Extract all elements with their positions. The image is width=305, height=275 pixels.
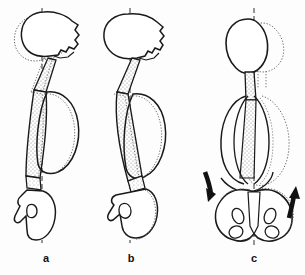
panel-caption-a: a <box>36 252 56 264</box>
thoracic-cage-a <box>37 92 79 174</box>
skull-dotted-neck-c <box>258 71 266 88</box>
panel-a <box>14 8 79 243</box>
pelvis-notch-b <box>119 203 131 218</box>
panel-caption-b: b <box>121 252 141 264</box>
lumbar-band-a <box>26 176 41 190</box>
pelvis-lateral-b <box>108 189 158 238</box>
panel-caption-c: c <box>244 252 264 264</box>
skull-solid-outline-c <box>226 19 268 73</box>
panel-c <box>205 8 300 245</box>
thoracic-cage-dotted-inner-c <box>260 98 273 184</box>
cervical-spine-b <box>117 58 140 94</box>
panel-b <box>104 8 166 243</box>
anatomical-figure: a b c <box>0 0 305 275</box>
thoracic-spine-c <box>240 100 256 178</box>
skull-solid-outline-a <box>21 12 79 57</box>
rotation-arrow-right-upward <box>289 186 300 218</box>
skull-solid-outline-b <box>104 14 164 59</box>
pelvis-notch-a <box>27 204 37 217</box>
rotation-arrow-left-downward <box>205 172 216 202</box>
figure-canvas <box>0 0 305 275</box>
